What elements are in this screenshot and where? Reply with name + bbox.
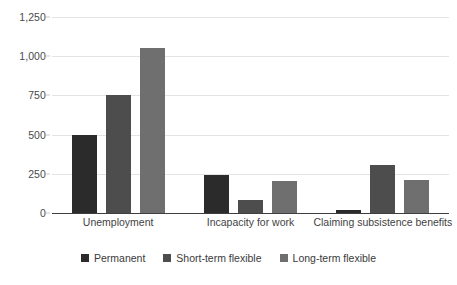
- y-axis-tick: [46, 17, 50, 18]
- y-axis-tick-label: 250: [28, 168, 46, 180]
- legend-swatch-icon: [280, 254, 288, 262]
- bar-group-bars: [52, 17, 184, 213]
- legend-label: Short-term flexible: [176, 252, 261, 264]
- x-axis-category-label: Incapacity for work: [207, 216, 295, 228]
- bar-group: [317, 17, 449, 213]
- legend-label: Permanent: [94, 252, 145, 264]
- y-axis-tick: [46, 134, 50, 135]
- bar-chart: 02505007501,0001,250 UnemploymentIncapac…: [0, 0, 457, 285]
- bar-group: [52, 17, 184, 213]
- legend-item[interactable]: Short-term flexible: [163, 252, 261, 264]
- plot-area: [52, 17, 449, 213]
- legend-label: Long-term flexible: [293, 252, 376, 264]
- axis-baseline: [52, 213, 449, 214]
- y-axis-tick-label: 1,250: [19, 11, 46, 23]
- bar-group: [184, 17, 316, 213]
- bar: [238, 200, 263, 213]
- y-axis-tick: [46, 95, 50, 96]
- x-axis-category-label: Claiming subsistence benefits: [313, 216, 452, 228]
- legend-swatch-icon: [163, 254, 171, 262]
- x-axis-category-label: Unemployment: [83, 216, 154, 228]
- bar: [204, 175, 229, 213]
- x-axis-category-labels: UnemploymentIncapacity for workClaiming …: [52, 216, 449, 234]
- y-axis-tick-label: 1,000: [19, 50, 46, 62]
- legend-item[interactable]: Permanent: [81, 252, 145, 264]
- bar-group-bars: [317, 17, 449, 213]
- bar: [272, 181, 297, 213]
- y-axis-tick: [46, 173, 50, 174]
- y-axis-tick-label: 500: [28, 129, 46, 141]
- bar-group-bars: [184, 17, 316, 213]
- legend-item[interactable]: Long-term flexible: [280, 252, 376, 264]
- y-axis-tick-label: 750: [28, 89, 46, 101]
- bar: [404, 180, 429, 213]
- bar: [140, 48, 165, 213]
- legend-swatch-icon: [81, 254, 89, 262]
- y-axis-tick: [46, 213, 50, 214]
- legend: PermanentShort-term flexibleLong-term fl…: [0, 252, 457, 264]
- bar: [106, 95, 131, 213]
- y-axis-labels: 02505007501,0001,250: [0, 17, 46, 213]
- bar: [72, 135, 97, 213]
- bar: [336, 210, 361, 213]
- bar-groups: [52, 17, 449, 213]
- bar: [370, 165, 395, 213]
- y-axis-tick: [46, 56, 50, 57]
